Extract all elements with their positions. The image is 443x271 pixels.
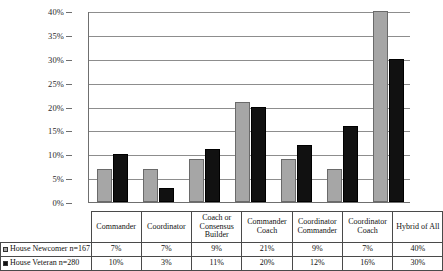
bar-group [319,12,365,202]
table-column-header: Commander Coach [242,212,292,243]
table-cell: 21% [242,243,292,257]
y-axis-tick-label: 5% [52,174,64,184]
y-axis-tick-label: 25% [48,79,64,89]
bar-series-0 [281,159,296,202]
bar-series-0 [327,169,342,202]
bar-series-0 [97,169,112,202]
table-cell: 9% [192,243,242,257]
table-cell: 3% [141,257,191,271]
table-header-row: CommanderCoordinatorCoach or Consensus B… [1,212,443,243]
table-column-header: Coordinator [141,212,191,243]
table-cell: 16% [342,257,392,271]
bar-series-1 [251,107,266,203]
bar-series-1 [113,154,128,202]
y-axis-tick-mark [66,84,72,85]
y-axis: 40%35%30%25%20%15%10%5%0% [0,0,88,215]
y-axis-tick-mark [66,108,72,109]
table-cell: 20% [242,257,292,271]
bar-series-1 [159,188,174,202]
table-cell: 12% [292,257,342,271]
bar-series-0 [235,102,250,202]
table-column-header: Coach or Consensus Builder [192,212,242,243]
bar-series-1 [343,126,358,202]
table-column-header: Coordinator Coach [342,212,392,243]
legend-swatch-icon [3,247,8,252]
legend-swatch-icon [3,261,8,266]
y-axis-tick-label: 15% [48,126,64,136]
y-axis-tick-mark [66,60,72,61]
bar-series-0 [143,169,158,202]
bar-series-1 [205,149,220,202]
legend-item-0: House Newcomer n=167 [1,243,92,257]
table-cell: 7% [91,243,141,257]
table-cell: 11% [192,257,242,271]
y-axis-tick-mark [66,155,72,156]
bar-series-0 [189,159,204,202]
y-axis-tick-label: 35% [48,31,64,41]
y-axis-tick-mark [66,179,72,180]
data-table: CommanderCoordinatorCoach or Consensus B… [0,211,443,271]
bar-group [227,12,273,202]
bar-group [181,12,227,202]
bar-series-0 [373,11,388,202]
table-cell: 7% [342,243,392,257]
bar-group [365,12,411,202]
y-axis-tick-label: 40% [48,7,64,17]
y-axis-tick-mark [66,12,72,13]
table-cell: 7% [141,243,191,257]
legend-item-1: House Veteran n=280 [1,257,92,271]
bar-series-1 [389,59,404,202]
table-cell: 30% [393,257,443,271]
table-cell: 10% [91,257,141,271]
y-axis-tick-label: 30% [48,55,64,65]
bar-group [135,12,181,202]
y-axis-tick-label: 20% [48,103,64,113]
legend-item-label: House Newcomer n=167 [10,244,90,253]
table-row: House Veteran n=28010%3%11%20%12%16%30% [1,257,443,271]
table-row: House Newcomer n=1677%7%9%21%9%7%40% [1,243,443,257]
y-axis-tick-label: 10% [48,150,64,160]
table-column-header: Coordinator Commander [292,212,342,243]
bar-series-1 [297,145,312,202]
plot-area [88,12,410,203]
bar-group [89,12,135,202]
y-axis-tick-mark [66,203,72,204]
table-column-header: Commander [91,212,141,243]
bar-series-container [89,12,410,202]
y-axis-tick-mark [66,131,72,132]
table-cell: 9% [292,243,342,257]
bar-group [273,12,319,202]
table-column-header: Hybrid of All [393,212,443,243]
y-axis-tick-mark [66,36,72,37]
table-cell: 40% [393,243,443,257]
y-axis-tick-label: 0% [52,198,64,208]
legend-item-label: House Veteran n=280 [10,258,79,267]
table-corner-cell [1,212,92,243]
